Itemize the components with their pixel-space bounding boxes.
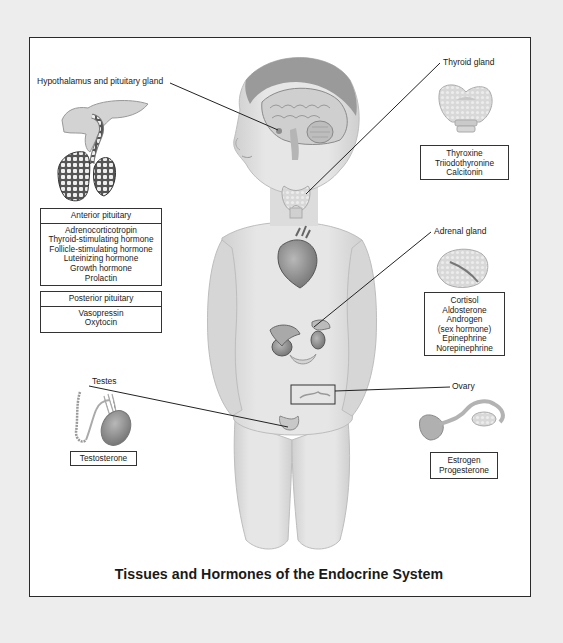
hormone-item: Prolactin bbox=[41, 274, 161, 284]
hormone-item: Progesterone bbox=[431, 466, 497, 476]
child-figure bbox=[208, 58, 377, 550]
hormone-box-anterior-pituitary: Anterior pituitary Adrenocorticotropin T… bbox=[40, 208, 162, 286]
adrenal-illustration bbox=[437, 249, 488, 287]
hormone-box-thyroid: Thyroxine Triiodothyronine Calcitonin bbox=[420, 145, 509, 180]
hormone-box-testes: Testosterone bbox=[70, 451, 137, 466]
box-header: Anterior pituitary bbox=[41, 209, 161, 224]
diagram-title: Tissues and Hormones of the Endocrine Sy… bbox=[29, 566, 529, 582]
box-items: Vasopressin Oxytocin bbox=[41, 307, 161, 330]
thyroid-illustration bbox=[439, 85, 492, 132]
box-items: Adrenocorticotropin Thyroid-stimulating … bbox=[41, 224, 161, 286]
hormone-item: Oxytocin bbox=[41, 318, 161, 328]
pituitary-illustration bbox=[58, 101, 148, 201]
ovary-illustration bbox=[419, 401, 502, 440]
callout-testes: Testes bbox=[92, 377, 117, 386]
callout-thyroid-gland: Thyroid gland bbox=[443, 58, 495, 67]
hormone-item: Testosterone bbox=[71, 454, 136, 464]
hormone-item: Calcitonin bbox=[421, 168, 508, 178]
hormone-item: Norepinephrine bbox=[425, 344, 504, 354]
box-header: Posterior pituitary bbox=[41, 292, 161, 307]
callout-adrenal-gland: Adrenal gland bbox=[434, 227, 486, 236]
hormone-box-adrenal: Cortisol Aldosterone Androgen (sex hormo… bbox=[424, 292, 505, 356]
testes-illustration bbox=[76, 392, 136, 450]
hormone-box-posterior-pituitary: Posterior pituitary Vasopressin Oxytocin bbox=[40, 291, 162, 333]
callout-ovary: Ovary bbox=[452, 382, 475, 391]
hormone-box-ovary: Estrogen Progesterone bbox=[430, 452, 498, 479]
callout-hypothalamus-pituitary: Hypothalamus and pituitary gland bbox=[37, 77, 163, 86]
